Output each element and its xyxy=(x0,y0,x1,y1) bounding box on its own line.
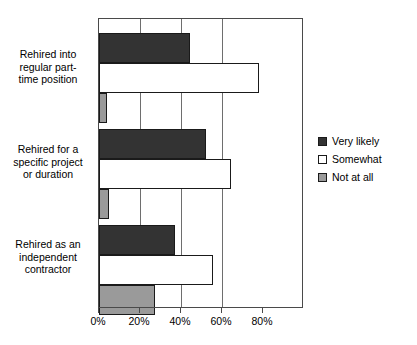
bar-rehired-specific-project-not-at-all xyxy=(99,189,109,219)
legend-swatch-icon-not-at-all xyxy=(318,173,327,182)
legend-item-very-likely: Very likely xyxy=(318,133,414,149)
x-tick-20 xyxy=(139,308,140,313)
category-label-1: Rehired into regular part- time position xyxy=(2,48,94,86)
x-tick-label-20: 20% xyxy=(116,315,162,327)
legend-item-somewhat: Somewhat xyxy=(318,151,414,167)
bar-rehired-regular-part-time-somewhat xyxy=(99,63,259,93)
legend-label-very-likely: Very likely xyxy=(332,135,379,147)
legend: Very likely Somewhat Not at all xyxy=(318,133,414,187)
bar-chart: Rehired into regular part- time position… xyxy=(0,0,417,345)
bar-rehired-regular-part-time-not-at-all xyxy=(99,93,107,123)
x-tick-0 xyxy=(98,308,99,313)
legend-swatch-icon-very-likely xyxy=(318,137,327,146)
x-axis-line xyxy=(98,307,303,308)
category-label-2: Rehired for a specific project or durati… xyxy=(2,143,94,181)
plot-area xyxy=(98,18,303,308)
bar-rehired-independent-contractor-somewhat xyxy=(99,255,213,285)
legend-swatch-icon-somewhat xyxy=(318,155,327,164)
legend-item-not-at-all: Not at all xyxy=(318,169,414,185)
x-tick-label-60: 60% xyxy=(198,315,244,327)
x-tick-label-80: 80% xyxy=(239,315,285,327)
legend-label-not-at-all: Not at all xyxy=(332,171,373,183)
bar-rehired-regular-part-time-very-likely xyxy=(99,33,190,63)
bar-rehired-specific-project-somewhat xyxy=(99,159,231,189)
x-tick-80 xyxy=(262,308,263,313)
x-tick-60 xyxy=(221,308,222,313)
bar-rehired-specific-project-very-likely xyxy=(99,129,206,159)
bar-rehired-independent-contractor-not-at-all xyxy=(99,285,155,315)
legend-label-somewhat: Somewhat xyxy=(332,153,382,165)
bar-rehired-independent-contractor-very-likely xyxy=(99,225,175,255)
x-tick-label-40: 40% xyxy=(157,315,203,327)
x-tick-label-0: 0% xyxy=(75,315,121,327)
x-tick-40 xyxy=(180,308,181,313)
category-label-3: Rehired as an independent contractor xyxy=(2,238,94,276)
